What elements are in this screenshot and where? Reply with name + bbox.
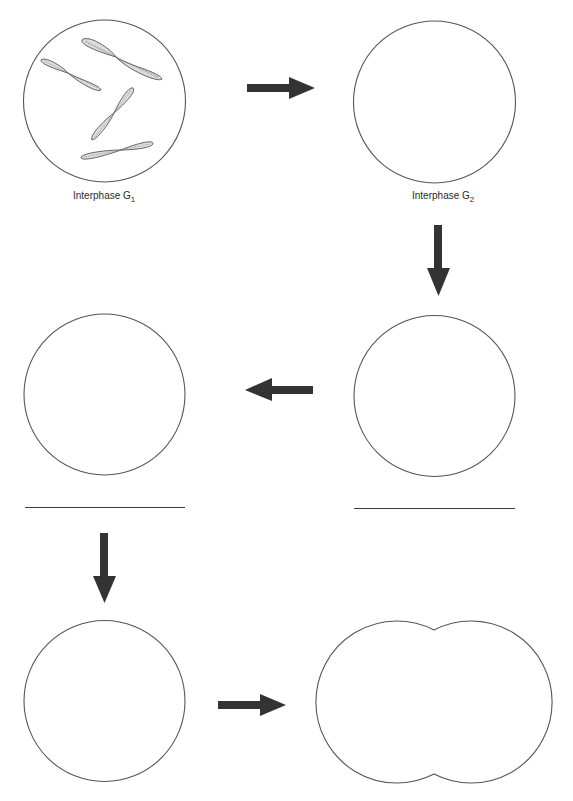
label-interphase-g2: Interphase G2	[412, 190, 474, 204]
chromosome-icon	[81, 142, 153, 159]
arrow-left-icon	[245, 378, 313, 401]
cell-stage-4	[24, 314, 185, 475]
chromosome-icon	[41, 59, 101, 90]
cell-interphase-g2	[354, 21, 516, 183]
arrow-down-icon	[93, 533, 116, 603]
arrow-right-icon	[218, 694, 286, 716]
answer-blank-stage-4[interactable]	[25, 507, 185, 508]
cell-cycle-diagram	[0, 0, 573, 801]
cell-interphase-g1	[24, 20, 186, 182]
arrow-down-icon	[427, 225, 450, 296]
cell-stage-3	[354, 316, 515, 477]
label-main: Interphase G	[412, 190, 470, 201]
arrow-right-icon	[247, 77, 315, 99]
label-interphase-g1: Interphase G1	[73, 190, 135, 204]
chromosome-icon	[92, 88, 134, 140]
cell-stage-5	[24, 621, 185, 782]
cell-dividing	[316, 621, 552, 783]
chromosome-icon	[82, 39, 162, 80]
answer-blank-stage-3[interactable]	[354, 508, 515, 509]
label-main: Interphase G	[73, 190, 131, 201]
label-subscript: 2	[470, 195, 474, 204]
label-subscript: 1	[131, 195, 135, 204]
